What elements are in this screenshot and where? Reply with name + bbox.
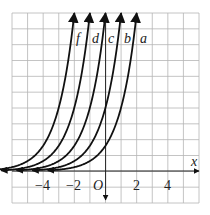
tick-label: −4	[35, 178, 50, 193]
x-axis-label: x	[190, 154, 198, 169]
curve-label-f: f	[76, 31, 82, 46]
curve-f	[0, 13, 74, 170]
curve-label-b: b	[124, 31, 131, 46]
curve-label-d: d	[92, 31, 100, 46]
curve-label-a: a	[140, 31, 147, 46]
origin-label: O	[93, 178, 103, 193]
tick-label: 2	[133, 178, 140, 193]
curve-label-c: c	[108, 31, 115, 46]
exponential-graph: x O −4 −2 2 4 f d c b a	[0, 0, 210, 215]
tick-label: −2	[66, 178, 81, 193]
tick-label: 4	[164, 178, 171, 193]
curves	[0, 13, 137, 170]
